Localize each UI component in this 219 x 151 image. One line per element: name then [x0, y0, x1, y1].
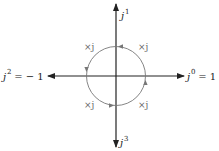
multiplier-label-top-right: ×j: [138, 42, 148, 52]
complex-unit-rotation-diagram: j 1 j 0 = 1 j 2 = − 1 j 3 ×j ×j ×j ×j: [0, 0, 219, 151]
svg-text:3: 3: [124, 135, 128, 143]
arrow-top-icon: [118, 44, 123, 48]
multiplier-label-bottom-left: ×j: [84, 100, 94, 110]
label-up: j 1: [119, 8, 129, 21]
multiplier-label-top-left: ×j: [84, 42, 94, 52]
svg-text:j: j: [118, 137, 123, 148]
multiplier-label-bottom-right: ×j: [138, 100, 148, 110]
svg-text:1: 1: [125, 8, 129, 16]
label-down: j 3: [118, 135, 128, 148]
svg-text:j: j: [185, 71, 190, 82]
svg-text:j: j: [119, 10, 124, 21]
label-left: j 2 = − 1: [1, 68, 44, 82]
axes: [48, 4, 184, 147]
svg-text:= 1: = 1: [195, 71, 216, 82]
arrow-left-icon: [84, 67, 88, 72]
svg-text:= − 1: = − 1: [11, 71, 44, 82]
label-right: j 0 = 1: [185, 68, 216, 82]
svg-text:j: j: [1, 71, 6, 82]
arrow-bottom-icon: [109, 103, 114, 107]
arrow-right-icon: [143, 80, 147, 85]
